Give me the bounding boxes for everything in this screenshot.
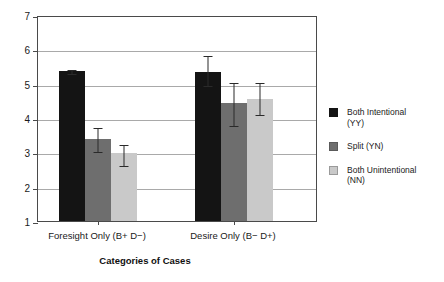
- bar-slot: [85, 17, 111, 221]
- bar-slot: [59, 17, 85, 221]
- error-bar: [72, 70, 73, 75]
- y-tick-label: 1: [24, 218, 30, 228]
- y-tick-mark: [33, 17, 38, 18]
- legend-swatch-icon: [329, 108, 338, 117]
- error-bar: [124, 145, 125, 167]
- y-tick-mark: [33, 189, 38, 190]
- category-label: Foresight Only (B+ D−): [48, 230, 146, 241]
- bar-slot: [195, 17, 221, 221]
- legend-label-line1: Both Intentional: [347, 107, 406, 117]
- legend-label-line1: Split (YN): [347, 141, 383, 151]
- bar-slot: [221, 17, 247, 221]
- category-label: Desire Only (B− D+): [190, 230, 276, 241]
- legend-item-split: Split (YN): [329, 141, 439, 152]
- legend-swatch-icon: [329, 142, 338, 151]
- legend-label-line1: Both Unintentional: [347, 165, 416, 175]
- bar: [247, 99, 273, 221]
- y-tick-label: 6: [24, 46, 30, 56]
- legend-label: Both Unintentional (NN): [347, 165, 416, 186]
- plot-area: 1234567: [37, 16, 317, 222]
- y-tick-label: 7: [24, 12, 30, 22]
- legend-label: Split (YN): [347, 141, 383, 152]
- y-tick-mark: [33, 51, 38, 52]
- y-tick-mark: [33, 86, 38, 87]
- y-tick-mark: [33, 223, 38, 224]
- legend-swatch-icon: [329, 166, 338, 175]
- bar: [195, 72, 221, 221]
- legend-label-line2: (NN): [347, 175, 416, 186]
- bar-chart-figure: 1234567 Foresight Only (B+ D−)Desire Onl…: [0, 0, 444, 282]
- legend-label-line2: (YY): [347, 118, 406, 129]
- x-tick-mark: [234, 221, 235, 225]
- error-bar: [98, 128, 99, 153]
- y-tick-mark: [33, 154, 38, 155]
- y-tick-label: 5: [24, 81, 30, 91]
- error-bar: [208, 56, 209, 87]
- chart-legend: Both Intentional (YY) Split (YN) Both Un…: [329, 107, 439, 199]
- bar-slot: [247, 17, 273, 221]
- bar: [59, 71, 85, 221]
- legend-item-both-intentional: Both Intentional (YY): [329, 107, 439, 128]
- y-tick-label: 3: [24, 149, 30, 159]
- y-tick-label: 2: [24, 184, 30, 194]
- bar-group: [195, 17, 273, 221]
- bar-group: [59, 17, 137, 221]
- legend-item-both-unintentional: Both Unintentional (NN): [329, 165, 439, 186]
- bar-slot: [111, 17, 137, 221]
- x-axis-title: Categories of Cases: [99, 255, 190, 266]
- y-tick-mark: [33, 120, 38, 121]
- legend-label: Both Intentional (YY): [347, 107, 406, 128]
- x-tick-mark: [98, 221, 99, 225]
- error-bar: [260, 83, 261, 116]
- error-bar: [234, 83, 235, 127]
- y-tick-label: 4: [24, 115, 30, 125]
